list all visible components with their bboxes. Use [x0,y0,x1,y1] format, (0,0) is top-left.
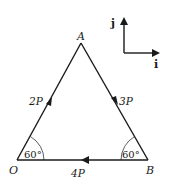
unit-label-i: i [154,58,158,71]
vertex-label-O: O [9,164,18,177]
unit-label-j: j [110,17,115,30]
vertex-label-B: B [145,164,154,177]
force-label-OA: 2P [28,95,44,107]
arrow-j-icon [120,17,128,25]
arrow-BO-icon [81,156,89,164]
angle-label-B: 60° [122,149,140,160]
angle-label-O: 60° [24,149,42,160]
force-diagram: A O B 2P 3P 4P 60° 60° j i [0,0,171,189]
force-label-AB: 3P [119,95,134,107]
force-label-BO: 4P [70,167,86,179]
arrow-i-icon [152,49,160,57]
vertex-label-A: A [76,30,85,43]
